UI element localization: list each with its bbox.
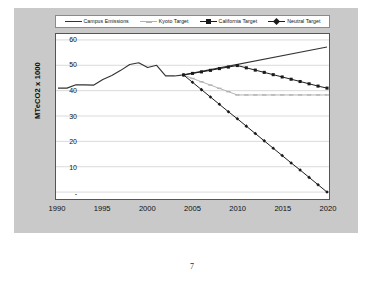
data-point-marker — [317, 85, 320, 88]
data-point-marker — [307, 94, 311, 95]
data-point-marker — [253, 94, 257, 95]
plot-area — [55, 33, 330, 200]
data-point-marker — [280, 94, 284, 95]
data-point-marker — [209, 69, 212, 72]
data-point-marker — [290, 78, 293, 81]
legend-swatch-none-icon — [65, 18, 82, 25]
legend-item[interactable]: Campus Emissions — [65, 18, 129, 25]
data-point-marker — [289, 94, 293, 95]
legend-label: Neutral Target — [287, 18, 320, 25]
series-line — [182, 73, 329, 194]
legend-label: Kyoto Target — [159, 18, 189, 25]
data-point-marker — [272, 73, 275, 76]
data-point-marker — [190, 78, 194, 79]
legend-item[interactable]: Neutral Target — [268, 18, 320, 25]
data-point-marker — [218, 67, 221, 70]
x-tick-label: 1995 — [82, 204, 122, 213]
data-point-marker — [316, 94, 320, 95]
data-point-marker — [298, 94, 302, 95]
plot-svg — [56, 34, 329, 199]
data-point-marker — [254, 69, 257, 72]
legend-swatch-dash-icon — [140, 18, 157, 25]
x-tick-label: 2020 — [308, 204, 348, 213]
data-point-marker — [235, 94, 239, 95]
data-point-marker — [299, 80, 302, 83]
data-point-marker — [245, 66, 248, 69]
x-tick-label: 2000 — [127, 204, 167, 213]
data-point-marker — [227, 66, 230, 69]
legend-label: California Target — [219, 18, 258, 25]
x-tick-label: 2005 — [173, 204, 213, 213]
data-point-marker — [191, 72, 194, 75]
series-line — [181, 74, 329, 95]
chart-container: Campus EmissionsKyoto TargetCalifornia T… — [14, 8, 358, 233]
data-point-marker — [263, 71, 266, 74]
x-tick-label: 2010 — [218, 204, 258, 213]
data-point-marker — [199, 81, 203, 82]
data-point-marker — [281, 75, 284, 78]
legend-item[interactable]: Kyoto Target — [140, 18, 189, 25]
data-point-marker — [271, 94, 275, 95]
page-number: 7 — [0, 262, 384, 271]
data-point-marker — [208, 84, 212, 85]
x-tick-label: 1990 — [37, 204, 77, 213]
legend-swatch-diamond-icon — [268, 18, 285, 25]
legend-item[interactable]: California Target — [200, 18, 258, 25]
legend-label: Campus Emissions — [84, 18, 129, 25]
data-point-marker — [200, 70, 203, 73]
chart-legend: Campus EmissionsKyoto TargetCalifornia T… — [55, 15, 330, 28]
data-point-marker — [308, 82, 311, 85]
data-point-marker — [244, 94, 248, 95]
data-point-marker — [262, 94, 266, 95]
data-point-marker — [325, 94, 329, 95]
data-point-marker — [226, 91, 230, 92]
data-point-marker — [325, 87, 328, 90]
x-tick-label: 2015 — [263, 204, 303, 213]
data-point-marker — [236, 64, 239, 67]
y-axis-title: MTeCO2 x 1000 — [33, 36, 42, 146]
series-line — [182, 64, 329, 90]
legend-swatch-square-icon — [200, 18, 217, 25]
data-point-marker — [217, 88, 221, 89]
